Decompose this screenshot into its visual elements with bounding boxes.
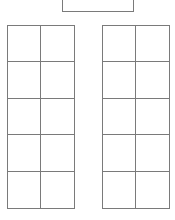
top-box	[62, 0, 134, 12]
left-grid-cell	[8, 99, 41, 135]
right-grid-cell	[136, 26, 169, 62]
right-grid-cell	[103, 135, 136, 171]
right-grid-cell	[136, 62, 169, 98]
right-grid-cell	[136, 172, 169, 208]
left-grid-cell	[41, 172, 74, 208]
right-grid-cell	[103, 26, 136, 62]
left-grid-cell	[8, 172, 41, 208]
left-grid-cell	[41, 26, 74, 62]
left-grid-cell	[8, 62, 41, 98]
left-grid-cell	[41, 99, 74, 135]
left-grid-cell	[8, 135, 41, 171]
right-grid-cell	[103, 172, 136, 208]
left-grid	[7, 25, 75, 209]
right-grid-cell	[103, 62, 136, 98]
left-grid-cell	[41, 62, 74, 98]
right-grid-cell	[103, 99, 136, 135]
right-grid-cell	[136, 135, 169, 171]
left-grid-cell	[8, 26, 41, 62]
right-grid	[102, 25, 170, 209]
left-grid-cell	[41, 135, 74, 171]
right-grid-cell	[136, 99, 169, 135]
